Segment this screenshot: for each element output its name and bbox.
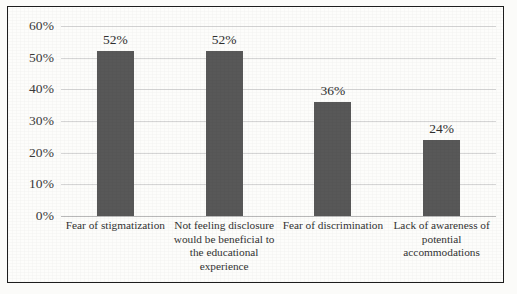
category-label-line: Lack of awareness of (387, 219, 496, 233)
category-label: Fear of stigmatization (61, 219, 170, 233)
y-axis-tick-label: 10% (29, 176, 54, 192)
category-label-line: Not feeling disclosure (170, 219, 279, 233)
category-label-line: Fear of discrimination (279, 219, 388, 233)
gridline (61, 26, 496, 27)
category-label: Not feeling disclosurewould be beneficia… (170, 219, 279, 273)
chart-frame: 60%50%40%30%20%10%0% 52%52%36%24% Fear o… (7, 6, 504, 283)
bar: 52% (206, 51, 243, 216)
category-labels: Fear of stigmatizationNot feeling disclo… (61, 219, 496, 287)
bar-value-label: 36% (321, 83, 346, 99)
category-label-line: Fear of stigmatization (61, 219, 170, 233)
bar-value-label: 52% (212, 32, 237, 48)
bar: 36% (314, 102, 351, 216)
y-axis-tick-label: 60% (29, 18, 54, 34)
y-axis-tick-label: 0% (36, 208, 54, 224)
y-axis-tick-label: 20% (29, 145, 54, 161)
category-label-line: potential (387, 233, 496, 247)
bar: 24% (423, 140, 460, 216)
gridline (61, 216, 496, 217)
category-label: Fear of discrimination (279, 219, 388, 233)
chart-page: 60%50%40%30%20%10%0% 52%52%36%24% Fear o… (0, 0, 517, 294)
y-axis-tick-label: 30% (29, 113, 54, 129)
category-label-line: would be beneficial to (170, 233, 279, 247)
category-label-line: the educational (170, 246, 279, 260)
y-axis-tick-label: 50% (29, 50, 54, 66)
bar-value-label: 24% (429, 121, 454, 137)
category-label-line: accommodations (387, 246, 496, 260)
plot-area: 60%50%40%30%20%10%0% 52%52%36%24% (61, 26, 496, 216)
category-label-line: experience (170, 260, 279, 274)
y-axis-tick-label: 40% (29, 81, 54, 97)
bar-value-label: 52% (103, 32, 128, 48)
bar: 52% (97, 51, 134, 216)
category-label: Lack of awareness ofpotentialaccommodati… (387, 219, 496, 260)
